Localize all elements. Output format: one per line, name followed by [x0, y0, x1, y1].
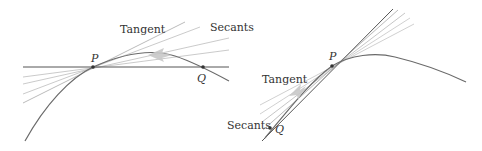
secant-line: [23, 27, 200, 94]
point-q: [201, 65, 205, 69]
curve: [25, 53, 229, 141]
secants-label: Secants: [210, 21, 254, 34]
right-diagram: Tangent Secants P Q: [227, 9, 466, 141]
left-diagram: Tangent Secants P Q: [23, 21, 254, 141]
secant-line: [263, 10, 398, 130]
tangent-secant-diagram: Tangent Secants P Q Tangent Secants P Q: [0, 0, 482, 151]
point-q-label: Q: [275, 123, 284, 136]
tangent-label: Tangent: [262, 73, 308, 86]
point-p: [330, 64, 334, 68]
tangent-label: Tangent: [120, 23, 166, 36]
point-p: [91, 65, 95, 69]
point-p-label: P: [328, 50, 337, 63]
point-q-label: Q: [197, 72, 206, 85]
secants-label: Secants: [227, 119, 271, 132]
point-p-label: P: [90, 52, 99, 65]
